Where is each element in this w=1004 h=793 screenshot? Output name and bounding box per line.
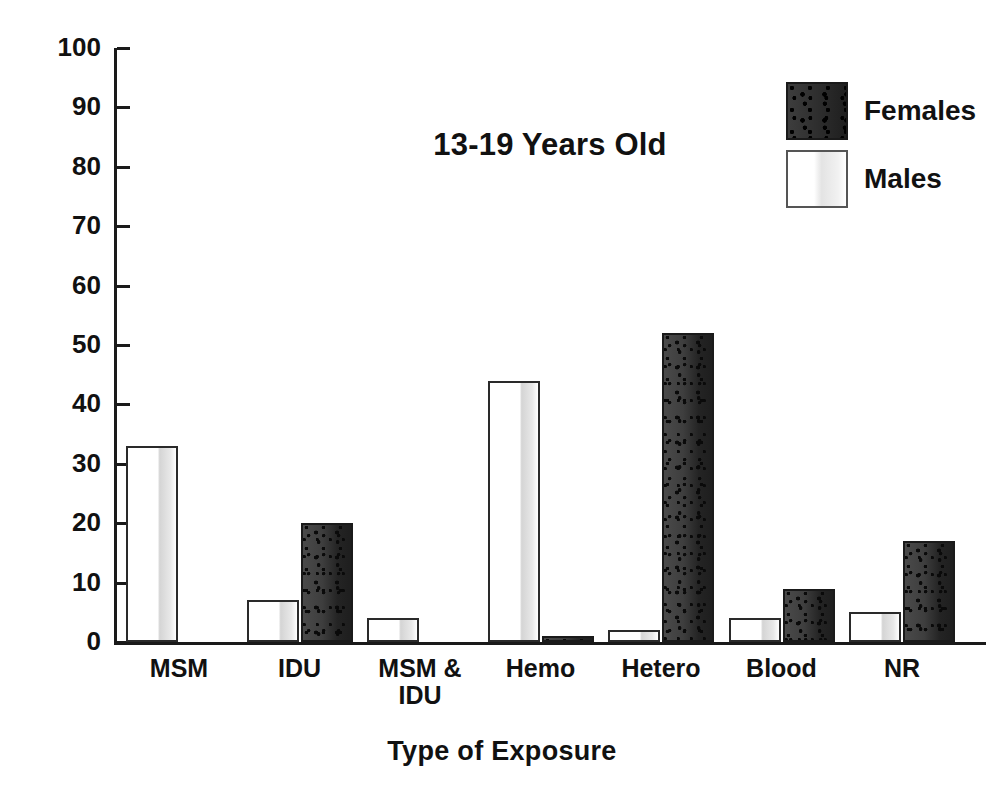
y-axis-tick-label: 10 (35, 569, 101, 595)
bar-females-5 (783, 589, 835, 642)
legend-item-female: Females (786, 82, 1001, 140)
legend: FemalesMales (786, 82, 1001, 218)
y-axis-tick-label: 70 (35, 212, 101, 238)
y-axis-tick-label: 20 (35, 509, 101, 535)
y-axis-tick-label: 90 (35, 93, 101, 119)
y-axis-tick-label: 60 (35, 272, 101, 298)
bar-females-3 (542, 636, 594, 642)
legend-swatch-male-icon (786, 150, 848, 208)
bar-males-1 (247, 600, 299, 642)
y-axis-tick-label: 50 (35, 331, 101, 357)
chart-page: 13-19 Years Old Percentage 0102030405060… (0, 0, 1004, 793)
x-axis-line (114, 642, 986, 645)
bar-males-5 (729, 618, 781, 642)
bar-males-2 (367, 618, 419, 642)
y-axis-tick-label: 100 (35, 34, 101, 60)
y-axis-tick-label: 0 (35, 628, 101, 654)
legend-swatch-female-icon (786, 82, 848, 140)
bar-females-4 (662, 333, 714, 642)
bar-females-6 (903, 541, 955, 642)
legend-label-female: Females (864, 97, 976, 125)
bar-females-1 (301, 523, 353, 642)
bar-males-4 (608, 630, 660, 642)
bar-males-0 (126, 446, 178, 642)
legend-item-male: Males (786, 150, 1001, 208)
y-axis-tick-label: 80 (35, 153, 101, 179)
x-axis-label-6: NR (824, 655, 980, 682)
legend-label-male: Males (864, 165, 942, 193)
x-axis-title: Type of Exposure (0, 736, 1004, 767)
bar-males-3 (488, 381, 540, 642)
bar-males-6 (849, 612, 901, 642)
y-axis-tick-label: 40 (35, 390, 101, 416)
y-axis-tick-label: 30 (35, 450, 101, 476)
